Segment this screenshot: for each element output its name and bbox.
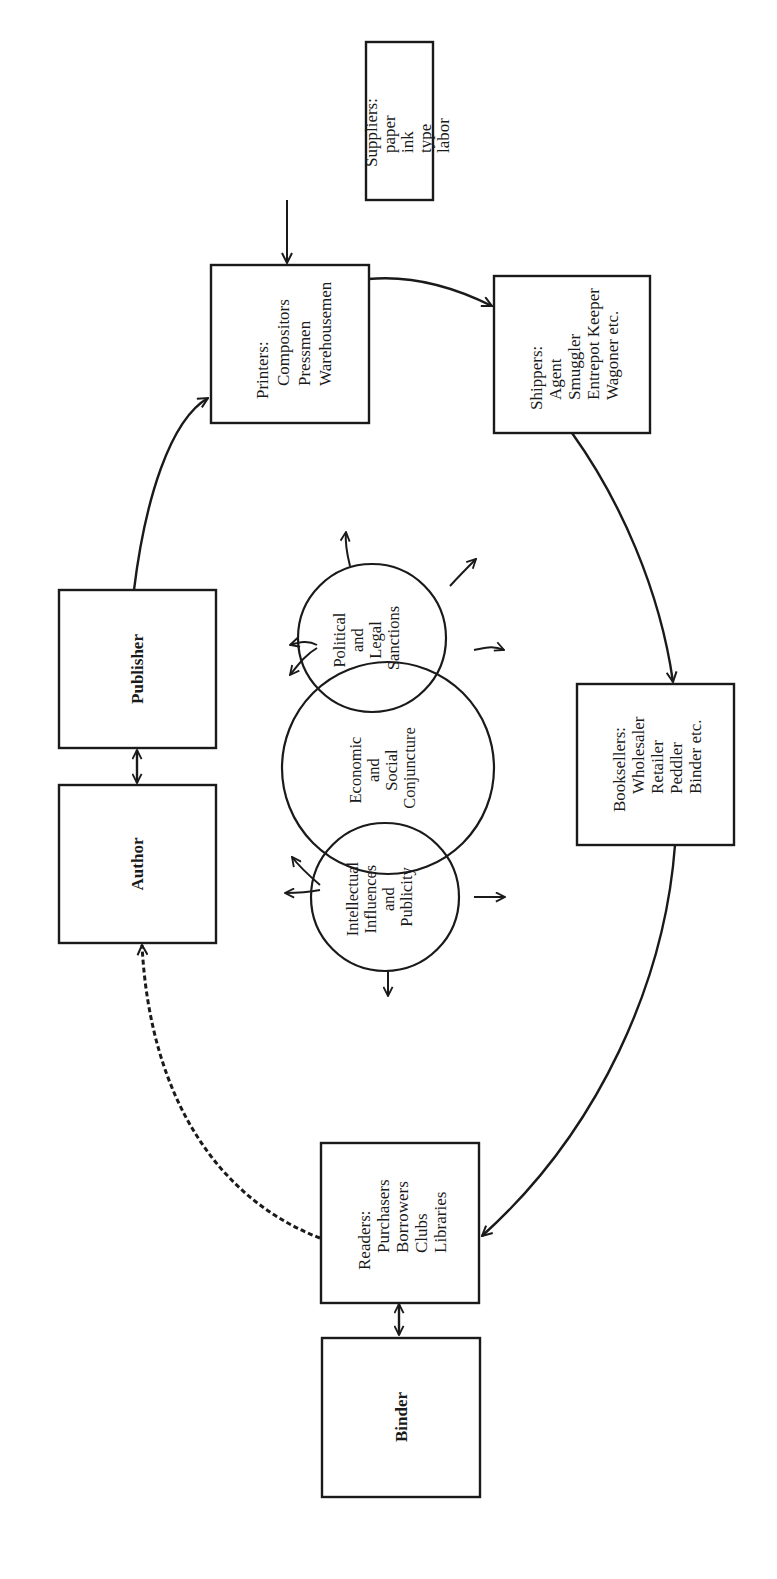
edge-printers-to-shippers <box>368 278 492 306</box>
influence-arrow-icon <box>450 559 476 586</box>
binder-label: Binder <box>392 1392 411 1443</box>
circle-political-label: Political and Legal Sanctions <box>330 606 403 670</box>
node-booksellers: Booksellers: Wholesaler Retailer Peddler… <box>577 684 734 845</box>
edge-publisher-to-printers <box>134 398 208 590</box>
node-publisher: Publisher <box>59 590 216 748</box>
author-label: Author <box>128 837 147 890</box>
communications-circuit-diagram: Political and Legal Sanctions Economic a… <box>0 0 777 1579</box>
node-binder: Binder <box>322 1338 480 1497</box>
circle-economic-social-conjuncture: Economic and Social Conjuncture <box>282 662 494 874</box>
node-author: Author <box>59 785 216 943</box>
influence-arrow-icon <box>346 532 350 566</box>
node-shippers: Shippers: Agent Smuggler Entrepot Keeper… <box>494 276 650 433</box>
edge-shippers-to-booksellers <box>572 433 673 682</box>
influence-arrow-icon <box>290 648 317 675</box>
influence-arrow-icon <box>290 642 317 645</box>
edge-readers-to-author-dashed <box>142 945 320 1238</box>
node-readers: Readers: Purchasers Borrowers Clubs Libr… <box>321 1143 479 1303</box>
node-printers: Printers: Compositors Pressmen Warehouse… <box>211 265 369 423</box>
influence-arrow-icon <box>285 890 320 893</box>
publisher-label: Publisher <box>128 634 147 704</box>
node-suppliers: Suppliers: paper ink type labor <box>362 42 453 200</box>
circle-intellectual-label: Intellectual Influences and Publicity <box>343 858 416 936</box>
influence-arrow-icon <box>474 647 504 650</box>
edge-booksellers-to-readers <box>482 845 675 1236</box>
circle-economic-label: Economic and Social Conjuncture <box>346 727 419 809</box>
